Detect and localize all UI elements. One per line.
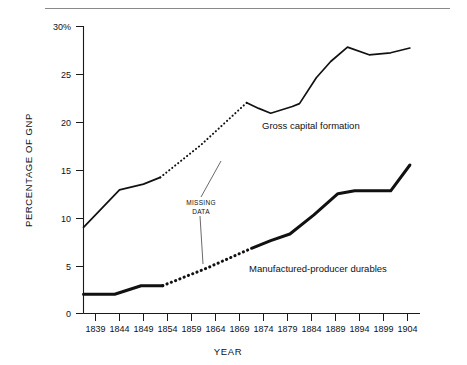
x-tick-label-1859: 1859: [181, 324, 201, 334]
annotation-missing-data-line1: MISSING: [186, 199, 216, 206]
series-manufactured-producer-durables-dotted-gap: [163, 248, 252, 285]
x-tick-label-1894: 1894: [349, 324, 369, 334]
x-tick-label-1849: 1849: [133, 324, 153, 334]
leader-line-to-upper-gap: [201, 161, 221, 197]
x-tick-label-1869: 1869: [229, 324, 249, 334]
series-manufactured-producer-durables-solid-left: [84, 286, 163, 295]
series-label-manufactured-producer-durables: Manufactured-producer durables: [249, 263, 387, 274]
y-axis-title: PERCENTAGE OF GNP: [23, 113, 34, 227]
series-gross-capital-formation-solid-left: [84, 177, 161, 227]
y-tick-label-20: 20: [61, 118, 71, 128]
x-tick-label-1864: 1864: [205, 324, 225, 334]
leader-line-to-lower-gap: [200, 216, 203, 264]
x-axis-title: YEAR: [214, 346, 242, 357]
gnp-line-chart: 30% 25 20 15 10 5 0 1839 1844 1849 1854: [0, 0, 467, 365]
x-tick-label-1844: 1844: [109, 324, 129, 334]
x-tick-label-1889: 1889: [325, 324, 345, 334]
annotation-missing-data-line2: DATA: [192, 208, 210, 215]
series-gross-capital-formation-dotted-gap: [160, 103, 246, 178]
y-tick-label-5: 5: [66, 262, 71, 272]
x-tick-marks: [96, 314, 408, 322]
x-tick-label-1899: 1899: [373, 324, 393, 334]
y-tick-marks: [76, 27, 84, 314]
series-manufactured-producer-durables-solid-right: [252, 165, 410, 248]
y-tick-label-25: 25: [61, 70, 71, 80]
x-tick-label-1874: 1874: [253, 324, 273, 334]
y-tick-label-15: 15: [61, 166, 71, 176]
chart-figure: 30% 25 20 15 10 5 0 1839 1844 1849 1854: [0, 0, 467, 365]
x-tick-label-1884: 1884: [301, 324, 321, 334]
y-tick-label-10: 10: [61, 214, 71, 224]
x-tick-label-1854: 1854: [157, 324, 177, 334]
x-tick-label-1904: 1904: [397, 324, 417, 334]
x-tick-label-1879: 1879: [277, 324, 297, 334]
y-tick-label-0: 0: [66, 309, 71, 319]
series-gross-capital-formation-solid-right: [247, 47, 410, 113]
x-tick-label-1839: 1839: [85, 324, 105, 334]
y-tick-label-30: 30%: [53, 22, 71, 32]
series-label-gross-capital-formation: Gross capital formation: [262, 120, 360, 131]
